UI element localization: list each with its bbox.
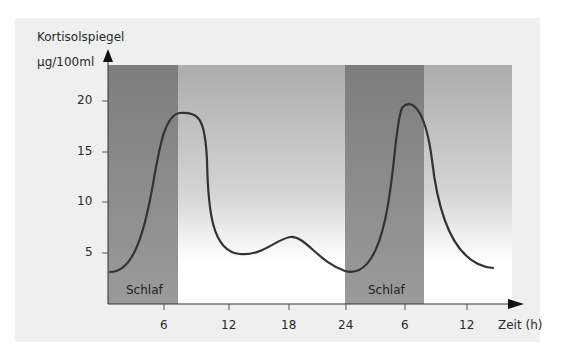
sleep-label-1: Schlaf — [126, 283, 163, 297]
y-axis-unit: µg/100ml — [37, 55, 94, 69]
y-ticks — [102, 101, 108, 253]
x-tick-label-24: 24 — [338, 318, 353, 332]
y-axis-title: Kortisolspiegel — [37, 30, 124, 44]
x-tick-label-12b: 12 — [459, 318, 474, 332]
y-tick-label-10: 10 — [77, 194, 92, 208]
sleep-band-2 — [345, 65, 424, 304]
sleep-band-1 — [108, 65, 178, 304]
cortisol-chart — [0, 0, 568, 357]
y-tick-label-15: 15 — [77, 144, 92, 158]
x-tick-label-12: 12 — [221, 318, 236, 332]
x-axis-title: Zeit (h) — [498, 318, 542, 332]
x-tick-label-6b: 6 — [401, 318, 409, 332]
x-tick-label-6: 6 — [160, 318, 168, 332]
y-tick-label-5: 5 — [85, 245, 93, 259]
x-tick-label-18: 18 — [281, 318, 296, 332]
x-axis-arrow-icon — [508, 299, 524, 309]
sleep-label-2: Schlaf — [368, 283, 405, 297]
x-ticks — [164, 304, 467, 310]
y-tick-label-20: 20 — [77, 93, 92, 107]
y-axis-arrow-icon — [103, 49, 113, 62]
